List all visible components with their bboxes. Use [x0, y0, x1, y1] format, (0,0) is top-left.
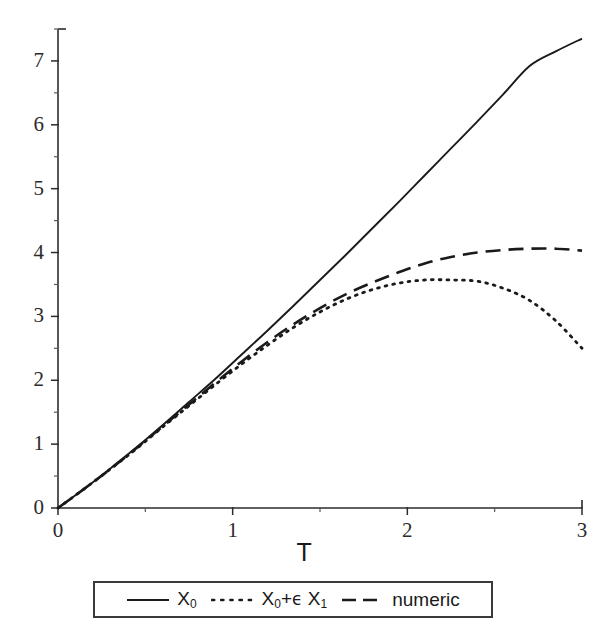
y-tick-label: 2 — [14, 369, 44, 390]
dotted-line-sample — [211, 594, 255, 606]
x-axis-title: T — [0, 538, 609, 567]
legend-entry-x0-eps-x1: X0+ϵ X1 — [204, 589, 335, 610]
dashed-line-sample — [341, 594, 385, 606]
axes-group — [51, 29, 582, 515]
curves-group — [58, 39, 582, 508]
y-tick-label: 4 — [14, 242, 44, 263]
y-tick-label: 6 — [14, 114, 44, 135]
series-line-X_0+eps X_1 — [58, 280, 582, 508]
legend-entry-numeric: numeric — [334, 590, 467, 609]
legend-label-numeric: numeric — [392, 590, 460, 609]
series-line-X_0 — [58, 39, 582, 508]
y-tick-label: 7 — [14, 50, 44, 71]
legend-entry-x0: X0 — [119, 589, 203, 610]
legend-label-x0: X0 — [177, 589, 196, 610]
figure-canvas: 01234567 0123 T X0 X0+ϵ X1 — [0, 0, 609, 642]
solid-line-sample — [126, 594, 170, 606]
y-tick-label: 5 — [14, 178, 44, 199]
legend-label-x0-eps-x1: X0+ϵ X1 — [262, 589, 328, 610]
y-tick-label: 3 — [14, 305, 44, 326]
y-tick-label: 0 — [14, 497, 44, 518]
y-tick-label: 1 — [14, 433, 44, 454]
chart-legend: X0 X0+ϵ X1 numeric — [93, 581, 493, 618]
